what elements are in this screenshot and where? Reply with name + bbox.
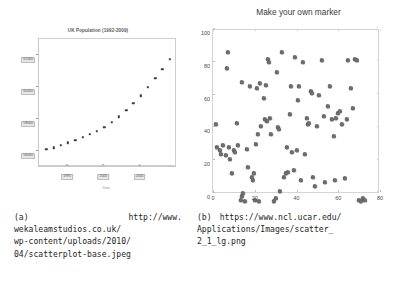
caption-b-label: (b) — [197, 211, 212, 223]
chart-b-title: Make your own marker — [196, 7, 401, 17]
chart-b-ytick-mark — [213, 159, 215, 160]
chart-a-data-point — [118, 115, 120, 117]
chart-b-xtick-mark — [380, 190, 381, 192]
chart-a-data-point — [132, 102, 134, 104]
chart-b-data-point — [296, 75, 301, 80]
chart-b-data-point — [257, 71, 262, 76]
chart-b-data-point — [235, 134, 240, 139]
chart-a-xtick-label: 2005 — [134, 174, 146, 180]
chart-a-xlabel: Year — [36, 186, 176, 190]
chart-b-data-point — [245, 137, 250, 142]
chart-a-data-point — [103, 126, 105, 128]
chart-b-data-point — [276, 117, 281, 122]
chart-a-data-point — [147, 86, 149, 88]
figure-a: UK Population (1992-2009) Total Populati… — [0, 0, 196, 206]
chart-b-data-point — [268, 106, 273, 111]
caption-a: (a) http://www. wekaleamstudios.co.uk/ w… — [0, 206, 196, 286]
chart-b-data-point — [293, 45, 298, 50]
chart-b-data-point — [246, 155, 251, 160]
chart-b-data-point — [241, 181, 246, 186]
chart-b-grid-tick — [297, 30, 298, 31]
chart-b-data-point — [256, 189, 261, 194]
chart-b-data-point — [300, 50, 305, 55]
chart-a-data-point — [60, 144, 62, 146]
chart-b-data-point — [277, 179, 282, 184]
chart-b-data-point — [234, 111, 239, 116]
chart-b-xtick-label: 20 — [252, 196, 258, 201]
chart-b-data-point — [279, 40, 284, 45]
chart-b-grid-tick — [255, 30, 256, 31]
chart-b-ytick-label: 40 — [204, 129, 210, 134]
caption-a-url-part-4: 04/scatterplot-base.jpeg — [14, 248, 196, 260]
chart-b-data-point — [302, 142, 307, 147]
chart-b-ytick-mark — [213, 28, 215, 29]
chart-b-ytick-label: 80 — [204, 64, 210, 69]
chart-b-data-point — [289, 75, 294, 80]
caption-b-url-part-2: Applications/Images/scatter_ — [197, 223, 401, 235]
chart-b-data-point — [240, 70, 245, 75]
caption-a-line-1: (a) http://www. — [14, 211, 182, 223]
chart-b-ytick-label: 0 — [207, 195, 210, 200]
chart-b-data-point — [298, 168, 303, 173]
chart-b-data-point — [288, 102, 293, 107]
chart-a-xtick-label: 1995 — [61, 174, 73, 180]
chart-b-data-point — [332, 168, 337, 173]
chart-b-ytick-label: 60 — [204, 96, 210, 101]
figures-row: UK Population (1992-2009) Total Populati… — [0, 0, 401, 206]
chart-a-data-point — [67, 141, 69, 143]
chart-b-grid-tick — [377, 93, 378, 94]
caption-a-label: (a) — [14, 211, 29, 223]
chart-a-data-point — [161, 68, 163, 70]
chart-b-data-point — [338, 99, 343, 104]
chart-b-xtick-mark — [255, 190, 256, 192]
chart-b-grid-tick — [338, 30, 339, 31]
chart-b-data-point — [213, 112, 218, 117]
chart-a-data-point — [139, 95, 141, 97]
chart-b-data-point — [225, 40, 230, 45]
chart-b-data-point — [264, 73, 269, 78]
chart-b-data-point — [310, 165, 315, 170]
chart-b-grid-tick — [377, 27, 378, 28]
chart-a-y-axis-line — [38, 38, 39, 166]
chart-b-data-point — [319, 48, 324, 53]
chart-b-data-point — [317, 83, 322, 88]
chart-b-xtick-mark — [297, 190, 298, 192]
chart-b-data-point — [294, 138, 299, 143]
chart-a-title: UK Population (1992-2009) — [14, 28, 182, 33]
chart-b-grid-tick — [377, 126, 378, 127]
chart-b-ytick-label: 100 — [201, 31, 210, 36]
chart-a-ytick-label: 56000 — [21, 153, 35, 159]
chart-b-grid-tick — [213, 30, 214, 31]
chart-b-data-point — [322, 170, 327, 175]
chart-b-data-point — [315, 114, 320, 119]
chart-b-ytick-mark — [213, 94, 215, 95]
chart-b-data-point — [274, 60, 279, 65]
chart-b-grid-tick — [377, 159, 378, 160]
chart-a-ytick-label: 60000 — [21, 89, 35, 95]
chart-b-data-point — [267, 50, 272, 55]
chart-a-data-point — [45, 148, 47, 150]
chart-b-data-point — [354, 48, 359, 53]
chart-a-xtick-label: 2000 — [97, 174, 109, 180]
captions-row: (a) http://www. wekaleamstudios.co.uk/ w… — [0, 206, 401, 286]
chart-a-data-point — [110, 121, 112, 123]
chart-a-data-point — [125, 109, 127, 111]
figure-page: UK Population (1992-2009) Total Populati… — [0, 0, 401, 286]
chart-b-xtick-mark — [213, 190, 214, 192]
chart-b-grid-tick — [380, 30, 381, 31]
chart-b-data-point — [306, 111, 311, 116]
chart-a-data-point — [74, 139, 76, 141]
chart-b-ytick-mark — [213, 192, 215, 193]
chart-b-data-point — [327, 75, 332, 80]
chart-b-ytick-label: 20 — [204, 162, 210, 167]
chart-b-data-point — [247, 75, 252, 80]
chart-a-x-axis-line — [38, 166, 176, 167]
chart-a-ytick-label: 62000 — [21, 57, 35, 63]
chart-b-data-point — [345, 48, 350, 53]
chart-b-data-point — [313, 175, 318, 180]
chart-b-data-point — [224, 56, 229, 61]
chart-b-ytick-mark — [213, 126, 215, 127]
chart-a-data-point — [89, 133, 91, 135]
chart-b-xtick-label: 80 — [377, 196, 383, 201]
chart-b-data-point — [292, 158, 297, 163]
